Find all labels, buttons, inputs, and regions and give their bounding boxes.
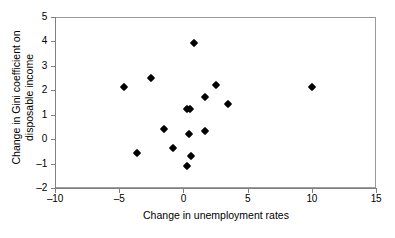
y-tick-mark xyxy=(51,17,55,18)
y-tick-mark xyxy=(51,139,55,140)
y-tick-mark xyxy=(51,90,55,91)
y-tick-mark xyxy=(51,115,55,116)
y-tick-label: 1 xyxy=(42,110,47,120)
y-axis-title: Change in Gini coefficient on disposable… xyxy=(10,8,35,188)
x-tick-label: 0 xyxy=(163,194,203,204)
y-axis-line xyxy=(55,17,56,189)
scatter-chart-figure: –2–1012345 –10–5051015 Change in unemplo… xyxy=(0,0,395,238)
y-tick-label: –2 xyxy=(36,183,47,193)
y-tick-label: –1 xyxy=(36,159,47,169)
y-tick-label: 4 xyxy=(42,36,47,46)
x-tick-label: –10 xyxy=(35,194,75,204)
plot-area xyxy=(55,17,376,188)
x-tick-label: 10 xyxy=(292,194,332,204)
x-tick-label: 5 xyxy=(228,194,268,204)
y-tick-mark xyxy=(51,164,55,165)
y-tick-label: 2 xyxy=(42,85,47,95)
x-axis-line xyxy=(55,188,377,189)
y-tick-label: 3 xyxy=(42,61,47,71)
y-axis-title-line-1: Change in Gini coefficient on xyxy=(10,8,23,188)
y-tick-mark xyxy=(51,41,55,42)
y-tick-label: 5 xyxy=(42,12,47,22)
y-axis-title-line-2: disposable income xyxy=(22,8,35,188)
x-tick-label: –5 xyxy=(99,194,139,204)
y-tick-label: 0 xyxy=(42,134,47,144)
y-tick-mark xyxy=(51,66,55,67)
x-axis-title: Change in unemployment rates xyxy=(55,209,377,221)
x-tick-label: 15 xyxy=(356,194,395,204)
